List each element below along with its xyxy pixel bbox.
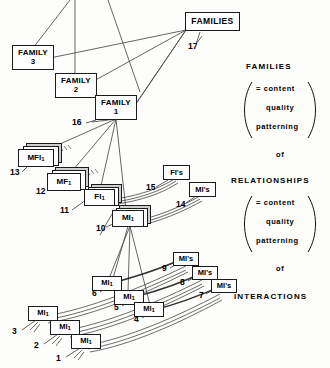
box-mis-9[interactable]: MI's <box>173 252 199 266</box>
callout-5: 5 <box>114 302 119 312</box>
box-mi-1-10[interactable]: MI1 <box>112 210 144 227</box>
legend-heading-relationships: RELATIONSHIPS <box>231 176 310 185</box>
callout-11: 11 <box>60 205 69 215</box>
box-mis-9-label: MI's <box>179 255 193 263</box>
box-family-3-line2: 3 <box>31 58 36 66</box>
box-mi-1-3-sub: 1 <box>46 311 49 317</box>
callout-14: 14 <box>176 199 185 209</box>
box-mis-8-label: MI's <box>198 269 212 277</box>
legend-relationships-row-quality: quality <box>266 217 294 226</box>
callout-16: 16 <box>72 117 81 127</box>
legend-column: FAMILIES = content quality patterning of… <box>228 0 330 368</box>
box-mi-1-5-label: MI <box>123 292 131 301</box>
callout-8: 8 <box>180 277 185 287</box>
callout-2: 2 <box>34 340 39 350</box>
box-fis[interactable]: FI's <box>163 165 190 180</box>
legend-relationships-row-of: of <box>276 264 284 273</box>
legend-relationships-row-content: = content <box>256 198 295 207</box>
callout-13: 13 <box>10 167 19 177</box>
box-mi-1-5-sub: 1 <box>132 295 135 301</box>
legend-heading-families: FAMILIES <box>246 62 292 71</box>
box-family-1[interactable]: FAMILY 1 <box>95 95 137 120</box>
callout-15: 15 <box>146 182 155 192</box>
box-mi-1-3[interactable]: MI1 <box>28 306 58 321</box>
legend-families-row-of: of <box>276 150 284 159</box>
box-mi-1-6-label: MI <box>101 278 109 287</box>
callout-12: 12 <box>36 186 45 196</box>
legend-relationships-row-patterning: patterning <box>256 236 299 245</box>
box-mi-1-10-label: MI <box>122 213 131 222</box>
callout-1: 1 <box>56 353 61 363</box>
callout-10: 10 <box>96 223 105 233</box>
box-mi-1-2-label: MI <box>59 322 67 331</box>
legend-families-row-quality: quality <box>266 103 294 112</box>
box-mi-1-10-sub: 1 <box>131 216 134 222</box>
box-mf-1[interactable]: MF1 <box>47 173 81 191</box>
box-mis-14[interactable]: MI's <box>189 182 216 197</box>
box-mi-1-4-label: MI <box>143 304 151 313</box>
legend-group-relationships: = content quality patterning <box>228 192 324 258</box>
legend-heading-interactions: INTERACTIONS <box>234 292 307 301</box>
box-mi-1-2-sub: 1 <box>68 325 71 331</box>
box-family-1-line2: 1 <box>114 108 119 116</box>
callout-3: 3 <box>12 326 17 336</box>
box-mi-1-1-label: MI <box>80 336 88 345</box>
legend-families-row-content: = content <box>256 84 295 93</box>
box-mfi-1-sub: 1 <box>41 156 44 162</box>
box-mfi-1[interactable]: MFI1 <box>18 149 54 167</box>
box-mi-1-1[interactable]: MI1 <box>71 334 101 349</box>
box-family-2-line2: 2 <box>74 86 79 94</box>
callout-4: 4 <box>134 314 139 324</box>
legend-group-families: = content quality patterning <box>228 78 324 144</box>
box-mi-1-3-label: MI <box>37 308 45 317</box>
box-mf-1-label: MF <box>57 177 69 186</box>
box-fis-label: FI's <box>170 169 183 177</box>
box-mis-8[interactable]: MI's <box>192 266 218 280</box>
callout-6: 6 <box>92 288 97 298</box>
callout-9: 9 <box>162 263 167 273</box>
box-family-2[interactable]: FAMILY 2 <box>55 73 97 98</box>
box-mi-1-6-sub: 1 <box>110 281 113 287</box>
box-mis-14-label: MI's <box>195 186 209 194</box>
box-mi-1-1-sub: 1 <box>89 339 92 345</box>
box-fi-1[interactable]: FI1 <box>84 189 115 206</box>
legend-families-row-patterning: patterning <box>256 122 299 131</box>
box-mi-1-2[interactable]: MI1 <box>50 320 80 335</box>
callout-17: 17 <box>188 41 197 51</box>
box-mfi-1-label: MFI <box>27 153 41 162</box>
box-mf-1-sub: 1 <box>68 180 71 186</box>
diagram-canvas: FAMILIES FAMILY 3 FAMILY 2 FAMILY 1 MFI1… <box>0 0 330 368</box>
box-fi-1-sub: 1 <box>101 195 104 201</box>
box-mi-1-4-sub: 1 <box>152 307 155 313</box>
box-family-3[interactable]: FAMILY 3 <box>12 45 54 70</box>
callout-7: 7 <box>199 290 204 300</box>
